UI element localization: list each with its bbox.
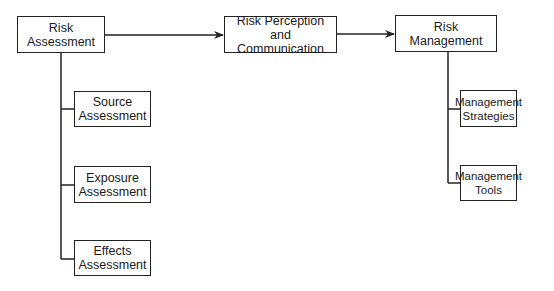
- node-source-assessment: Source Assessment: [74, 91, 151, 127]
- node-exposure-assessment: Exposure Assessment: [74, 166, 151, 203]
- node-label: Management Strategies: [455, 95, 522, 123]
- node-label: Source Assessment: [78, 95, 146, 123]
- node-label: Exposure Assessment: [78, 171, 146, 199]
- node-label: Risk Perception and Communication: [225, 14, 336, 56]
- node-risk-perception: Risk Perception and Communication: [224, 16, 337, 53]
- node-effects-assessment: Effects Assessment: [74, 240, 151, 276]
- node-label: Management Tools: [455, 169, 522, 197]
- node-label: Risk Assessment: [27, 21, 95, 49]
- risk-flow-diagram: Risk Assessment Risk Perception and Comm…: [0, 0, 554, 291]
- node-label: Risk Management: [410, 20, 483, 48]
- node-management-strategies: Management Strategies: [460, 90, 517, 127]
- node-risk-assessment: Risk Assessment: [17, 16, 105, 53]
- node-label: Effects Assessment: [78, 244, 146, 272]
- node-risk-management: Risk Management: [395, 15, 497, 52]
- node-management-tools: Management Tools: [460, 165, 517, 201]
